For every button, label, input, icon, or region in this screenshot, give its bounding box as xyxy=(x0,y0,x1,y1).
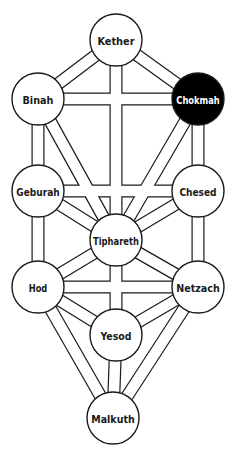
sephirah-label: Netzach xyxy=(176,282,219,295)
sephirah-label: Hod xyxy=(29,282,48,295)
sephirah-label: Tiphareth xyxy=(93,235,139,248)
tree-of-life-diagram: KetherBinahChokmahGeburahChesedTiphareth… xyxy=(0,0,234,451)
sephirah-chokmah[interactable]: Chokmah xyxy=(172,73,224,125)
sephirah-geburah[interactable]: Geburah xyxy=(12,165,64,217)
sephirah-label: Geburah xyxy=(16,186,59,199)
sephirah-binah[interactable]: Binah xyxy=(12,73,64,125)
sephirah-label: Malkuth xyxy=(91,413,134,426)
sephirah-label: Chokmah xyxy=(176,94,219,107)
sephirah-hod[interactable]: Hod xyxy=(12,261,64,313)
sephirah-yesod[interactable]: Yesod xyxy=(90,309,142,361)
sephirah-chesed[interactable]: Chesed xyxy=(172,165,224,217)
sephirah-malkuth[interactable]: Malkuth xyxy=(87,392,139,444)
sephirah-label: Kether xyxy=(97,35,134,48)
sephirah-netzach[interactable]: Netzach xyxy=(172,261,224,313)
sephirah-tiphareth[interactable]: Tiphareth xyxy=(90,214,142,266)
sephirah-label: Binah xyxy=(23,94,54,107)
sephirah-label: Chesed xyxy=(179,186,216,199)
sephirah-kether[interactable]: Kether xyxy=(90,14,142,66)
sephirah-label: Yesod xyxy=(100,330,132,343)
